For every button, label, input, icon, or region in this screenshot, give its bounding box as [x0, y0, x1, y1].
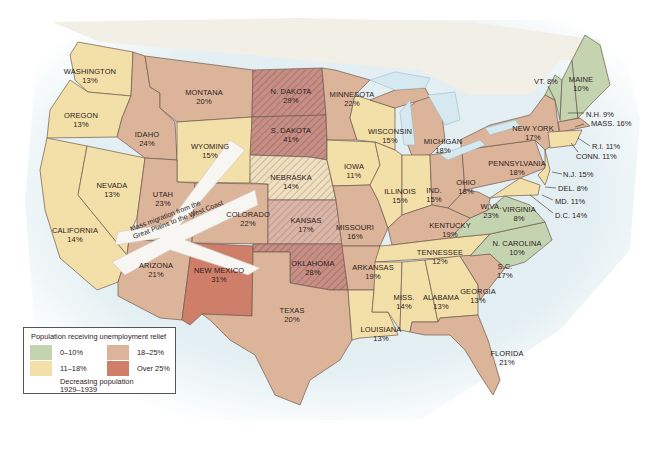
callout-vt: VT. 8% — [534, 77, 558, 86]
label-north-carolina: N. CAROLINA10% — [492, 239, 541, 257]
label-virginia: VIRGINIA8% — [502, 205, 536, 223]
label-washington: WASHINGTON13% — [64, 67, 116, 85]
label-montana: MONTANA20% — [185, 88, 223, 106]
legend-label-0-10: 0–10% — [60, 348, 83, 357]
label-illinois: ILLINOIS15% — [384, 187, 416, 205]
label-arkansas: ARKANSAS19% — [352, 263, 394, 281]
label-new-york: NEW YORK17% — [512, 124, 554, 142]
legend-swatch-11-18 — [30, 361, 52, 376]
legend-hatch-label: Decreasing population 1929–1939 — [60, 378, 134, 394]
label-alabama: ALABAMA13% — [423, 293, 459, 311]
legend-title: Population receiving unemployment relief — [31, 332, 166, 341]
callout-nh: N.H. 9% — [586, 110, 614, 119]
label-nevada: NEVADA13% — [97, 181, 128, 199]
legend-label-over-25: Over 25% — [137, 364, 170, 373]
state-indiana — [402, 155, 432, 215]
label-missouri: MISSOURI16% — [336, 223, 374, 241]
label-louisiana: LOUISIANA13% — [361, 325, 402, 343]
legend: Population receiving unemployment relief… — [23, 327, 176, 394]
label-mississippi: MISS.14% — [394, 293, 415, 311]
callout-mass: MASS. 16% — [591, 119, 631, 128]
label-tennessee: TENNESSEE12% — [417, 248, 463, 266]
callout-md: MD. 11% — [555, 197, 585, 206]
legend-swatch-over-25 — [107, 361, 129, 376]
label-pennsylvania: PENNSYLVANIA18% — [488, 159, 546, 177]
legend-swatch-18-25 — [107, 345, 129, 360]
label-wyoming: WYOMING15% — [191, 142, 229, 160]
label-s-dakota: S. DAKOTA41% — [271, 126, 311, 144]
label-nebraska: NEBRASKA14% — [270, 173, 312, 191]
label-new-mexico: NEW MEXICO31% — [194, 266, 244, 284]
label-kentucky: KENTUCKY19% — [429, 221, 471, 239]
label-california: CALIFORNIA14% — [52, 226, 98, 244]
label-oregon: OREGON13% — [64, 111, 98, 129]
label-idaho: IDAHO24% — [135, 130, 159, 148]
label-colorado: COLORADO22% — [226, 210, 270, 228]
label-iowa: IOWA11% — [344, 162, 364, 180]
legend-label-11-18: 11–18% — [60, 364, 87, 373]
callout-nj: N.J. 15% — [563, 170, 593, 179]
legend-label-18-25: 18–25% — [137, 348, 164, 357]
label-georgia: GEORGIA13% — [460, 287, 496, 305]
label-oklahoma: OKLAHOMA28% — [291, 259, 334, 277]
label-kansas: KANSAS17% — [290, 216, 321, 234]
label-maine: MAINE10% — [569, 75, 593, 93]
callout-conn: CONN. 11% — [576, 152, 617, 161]
callout-dc: D.C. 14% — [555, 211, 587, 220]
label-texas: TEXAS20% — [279, 306, 304, 324]
label-south-carolina: S.C.17% — [497, 262, 512, 280]
label-n-dakota: N. DAKOTA29% — [271, 87, 312, 105]
label-utah: UTAH23% — [153, 190, 173, 208]
label-florida: FLORIDA21% — [490, 349, 523, 367]
label-minnesota: MINNESOTA22% — [330, 90, 375, 108]
label-ohio: OHIO18% — [456, 178, 476, 196]
label-wisconsin: WISCONSIN15% — [368, 127, 412, 145]
label-indiana: IND.15% — [426, 186, 441, 204]
callout-ri: R.I. 11% — [592, 142, 620, 151]
label-west-virginia: W.VA.23% — [481, 202, 502, 220]
label-arizona: ARIZONA21% — [139, 261, 173, 279]
label-michigan: MICHIGAN18% — [424, 137, 462, 155]
legend-swatch-0-10 — [30, 345, 52, 360]
callout-del: DEL. 8% — [558, 184, 588, 193]
